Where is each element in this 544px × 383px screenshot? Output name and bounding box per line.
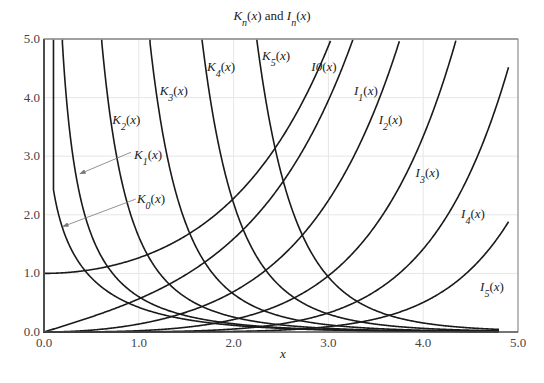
bessel-chart: Kn(x) and In(x) 0.01.02.03.04.05.0 0.01.… (0, 0, 544, 383)
chart-title: Kn(x) and In(x) (232, 8, 310, 28)
label-k5x: K5(x) (261, 48, 290, 67)
label-i1x: I1(x) (353, 83, 378, 103)
x-tick-label: 2.0 (225, 335, 241, 350)
label-i4x: I4(x) (460, 206, 485, 226)
curve-k5x (257, 39, 499, 329)
x-tick-label: 5.0 (510, 335, 526, 350)
annotation-arrow-k0x (63, 199, 136, 226)
label-k3x: K3(x) (159, 83, 188, 103)
label-k1x: K1(x) (133, 147, 162, 167)
x-tick-label: 1.0 (131, 335, 147, 350)
curves (44, 39, 509, 332)
curve-i2x (44, 39, 399, 332)
curve-k0x (53, 39, 499, 332)
label-i0x: I0(x) (310, 59, 336, 74)
curve-i4x (44, 39, 509, 332)
curve-k3x (150, 39, 499, 331)
label-k4x: K4(x) (206, 59, 235, 79)
x-tick-label: 4.0 (415, 335, 431, 350)
curve-i5x (44, 39, 509, 332)
label-i3x: I3(x) (415, 165, 440, 185)
y-tick-label: 5.0 (24, 31, 40, 46)
annotation-arrow-k1x (80, 152, 131, 174)
y-tick-label: 2.0 (24, 207, 40, 222)
y-tick-label: 3.0 (24, 148, 40, 163)
label-k0x: K0(x) (136, 191, 165, 211)
y-tick-label: 4.0 (24, 90, 40, 105)
label-i5x: I5(x) (479, 279, 504, 299)
x-tick-label: 3.0 (320, 335, 336, 350)
x-axis-label: x (279, 346, 286, 361)
curve-i1x (44, 39, 353, 332)
y-tick-labels: 0.01.02.03.04.05.0 (24, 31, 40, 339)
y-tick-label: 1.0 (24, 265, 40, 280)
label-i2x: I2(x) (378, 112, 403, 132)
y-tick-label: 0.0 (24, 324, 40, 339)
label-k2x: K2(x) (111, 112, 140, 132)
